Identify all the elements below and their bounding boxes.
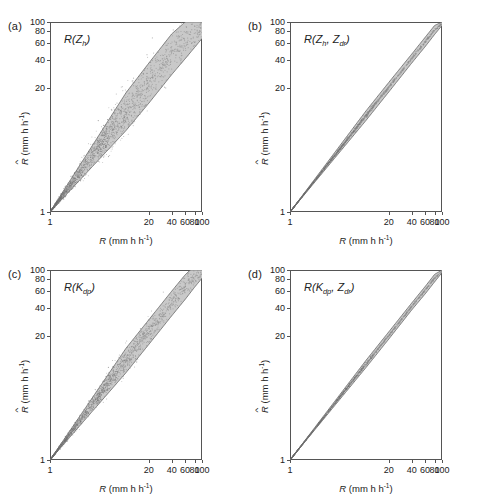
x-tick-label: 20 — [384, 217, 394, 227]
x-tick-label: 40 — [167, 217, 177, 227]
x-tick-mark — [435, 460, 436, 463]
y-tick-mark — [47, 308, 50, 309]
y-tick-label: 100 — [19, 17, 45, 27]
x-tick-mark — [149, 460, 150, 463]
y-tick-mark — [287, 43, 290, 44]
x-tick-label: 100 — [194, 465, 209, 475]
x-tick-mark — [442, 460, 443, 463]
y-tick-label: 40 — [259, 55, 285, 65]
y-tick-mark — [287, 336, 290, 337]
x-tick-label: 40 — [407, 217, 417, 227]
panel-d-y-axis-label: R (mm h h-1) — [258, 360, 270, 413]
y-tick-mark — [47, 22, 50, 23]
panel-a-plot-area: R(Zh) 112020404060608080100100 — [50, 22, 202, 212]
x-tick-label: 20 — [144, 465, 154, 475]
panel-b: (b) R(Zh, Zdr) 112020404060608080100100 … — [240, 0, 480, 248]
panel-c: (c) R(Kdp) 112020404060608080100100 R (m… — [0, 248, 240, 496]
x-tick-mark — [435, 212, 436, 215]
x-tick-mark — [50, 212, 51, 215]
panel-a-y-axis-label: R (mm h h-1) — [18, 112, 30, 165]
y-tick-mark — [287, 88, 290, 89]
y-tick-mark — [47, 43, 50, 44]
x-tick-label: 1 — [47, 217, 52, 227]
panel-c-y-axis-label: R (mm h h-1) — [18, 360, 30, 413]
x-tick-label: 1 — [287, 465, 292, 475]
y-tick-label: 1 — [259, 455, 285, 465]
panel-b-data-layer — [290, 22, 442, 212]
x-tick-mark — [389, 212, 390, 215]
y-tick-label: 20 — [259, 83, 285, 93]
y-tick-label: 80 — [19, 274, 45, 284]
figure-canvas: (a) R(Zh) 112020404060608080100100 R (mm… — [0, 0, 480, 496]
y-tick-mark — [47, 291, 50, 292]
y-tick-mark — [287, 291, 290, 292]
x-tick-label: 40 — [167, 465, 177, 475]
x-tick-label: 40 — [407, 465, 417, 475]
x-tick-mark — [50, 460, 51, 463]
y-tick-label: 60 — [19, 38, 45, 48]
x-tick-mark — [412, 460, 413, 463]
x-tick-label: 100 — [434, 217, 449, 227]
y-tick-label: 60 — [259, 286, 285, 296]
y-tick-label: 40 — [19, 303, 45, 313]
x-tick-mark — [425, 212, 426, 215]
y-tick-mark — [47, 336, 50, 337]
y-tick-mark — [287, 279, 290, 280]
scatter-points-dense-core — [290, 105, 374, 212]
y-tick-label: 100 — [259, 17, 285, 27]
y-tick-label: 100 — [19, 265, 45, 275]
panel-c-x-axis-label: R (mm h h-1) — [50, 482, 202, 494]
x-tick-label: 100 — [194, 217, 209, 227]
y-tick-label: 1 — [19, 207, 45, 217]
y-tick-mark — [47, 60, 50, 61]
x-tick-mark — [202, 460, 203, 463]
panel-c-data-layer — [50, 270, 202, 460]
y-tick-mark — [287, 308, 290, 309]
y-tick-label: 80 — [259, 274, 285, 284]
panel-a-data-layer — [50, 22, 202, 212]
panel-d: (d) R(Kdp, Zdr) 112020404060608080100100… — [240, 248, 480, 496]
y-tick-mark — [287, 22, 290, 23]
x-tick-label: 1 — [47, 465, 52, 475]
x-tick-label: 20 — [144, 217, 154, 227]
y-tick-mark — [287, 31, 290, 32]
y-tick-label: 80 — [19, 26, 45, 36]
panel-a: (a) R(Zh) 112020404060608080100100 R (mm… — [0, 0, 240, 248]
panel-b-x-axis-label: R (mm h h-1) — [290, 234, 442, 246]
panel-a-x-axis-label: R (mm h h-1) — [50, 234, 202, 246]
y-tick-label: 60 — [259, 38, 285, 48]
x-tick-mark — [412, 212, 413, 215]
y-tick-label: 1 — [19, 455, 45, 465]
y-tick-label: 100 — [259, 265, 285, 275]
x-tick-mark — [195, 460, 196, 463]
panel-b-y-axis-label: R (mm h h-1) — [258, 112, 270, 165]
x-tick-mark — [290, 460, 291, 463]
y-tick-label: 60 — [19, 286, 45, 296]
panel-c-plot-area: R(Kdp) 112020404060608080100100 — [50, 270, 202, 460]
x-tick-label: 20 — [384, 465, 394, 475]
y-tick-label: 20 — [19, 331, 45, 341]
y-tick-label: 20 — [19, 83, 45, 93]
y-tick-label: 1 — [259, 207, 285, 217]
x-tick-mark — [290, 212, 291, 215]
y-tick-label: 20 — [259, 331, 285, 341]
x-tick-mark — [425, 460, 426, 463]
y-tick-label: 40 — [259, 303, 285, 313]
scatter-points-dense-core — [290, 353, 373, 460]
panel-d-x-axis-label: R (mm h h-1) — [290, 482, 442, 494]
panel-d-data-layer — [290, 270, 442, 460]
x-tick-mark — [195, 212, 196, 215]
y-tick-mark — [47, 88, 50, 89]
x-tick-mark — [172, 460, 173, 463]
x-tick-mark — [185, 212, 186, 215]
x-tick-mark — [172, 212, 173, 215]
x-tick-mark — [202, 212, 203, 215]
y-tick-label: 80 — [259, 26, 285, 36]
y-tick-mark — [47, 270, 50, 271]
x-tick-mark — [442, 212, 443, 215]
x-tick-mark — [185, 460, 186, 463]
y-tick-mark — [287, 60, 290, 61]
x-tick-label: 1 — [287, 217, 292, 227]
y-tick-label: 40 — [19, 55, 45, 65]
panel-d-plot-area: R(Kdp, Zdr) 112020404060608080100100 — [290, 270, 442, 460]
